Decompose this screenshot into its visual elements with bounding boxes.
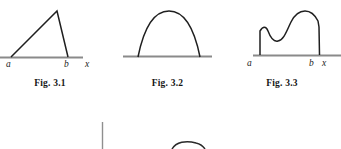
small-arc bbox=[172, 142, 205, 149]
figure-3-1-caption: Fig. 3.1 bbox=[0, 78, 100, 88]
figure-3-3-caption: Fig. 3.3 bbox=[230, 78, 334, 88]
figure-sheet: a b x Fig. 3.1 a b x Fig. 3.2 a b x Fig.… bbox=[0, 0, 341, 149]
figure-3-3-graphic bbox=[230, 0, 341, 75]
triangle-curve bbox=[11, 11, 68, 57]
figure-3-2-graphic bbox=[115, 0, 230, 75]
cut-off-next-figure-row bbox=[0, 100, 341, 149]
figure-3-1-label-x: x bbox=[85, 59, 89, 69]
parabola-curve bbox=[138, 11, 200, 57]
figure-3-1-label-a: a bbox=[6, 59, 11, 69]
figure-3-1-label-b: b bbox=[64, 59, 69, 69]
cut-off-graphic bbox=[0, 100, 341, 149]
figure-3-2-caption: Fig. 3.2 bbox=[115, 78, 220, 88]
figure-3-1-graphic bbox=[0, 0, 115, 75]
irregular-curve bbox=[260, 11, 320, 55]
